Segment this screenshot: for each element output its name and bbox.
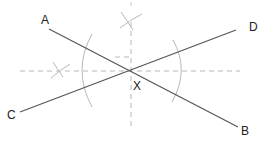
label-B: B [241,125,249,137]
top-cross-arc-1 [121,12,133,30]
label-X: X [133,80,141,92]
label-D: D [249,21,258,33]
label-A: A [41,14,49,26]
line-AB [49,29,238,127]
label-C: C [7,109,16,121]
diagram-canvas: A D C B X [0,0,262,141]
construction-drawing [0,0,262,141]
